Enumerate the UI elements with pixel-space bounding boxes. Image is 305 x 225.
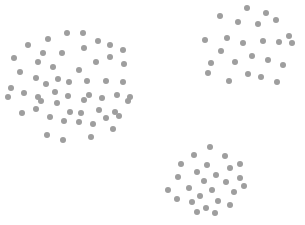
data-point [222,153,228,159]
data-point [186,185,192,191]
data-point [194,209,200,215]
data-point [174,196,180,202]
data-point [237,175,243,181]
data-point [194,169,200,175]
data-point [227,202,233,208]
data-point [237,161,243,167]
scatter-plot-figure [0,0,305,225]
data-point [209,187,215,193]
scatter-series-3 [0,0,305,225]
data-point [215,198,221,204]
data-point [227,165,233,171]
data-point [212,210,218,216]
data-point [197,193,203,199]
data-point [175,174,181,180]
data-point [223,179,229,185]
data-point [178,161,184,167]
data-point [241,183,247,189]
data-point [201,178,207,184]
data-point [191,152,197,158]
data-point [165,187,171,193]
data-point [213,172,219,178]
data-point [204,162,210,168]
data-point [203,205,209,211]
data-point [207,144,213,150]
plot-area [0,0,305,225]
data-point [231,189,237,195]
data-point [189,199,195,205]
